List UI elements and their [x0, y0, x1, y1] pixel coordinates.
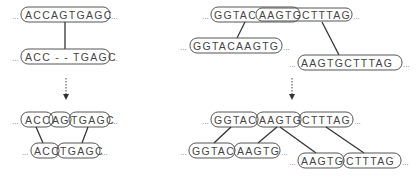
- svg-text:...: ...: [289, 158, 296, 167]
- svg-text:AAGTG: AAGTG: [259, 114, 302, 126]
- alignment-line: [258, 127, 277, 143]
- down-arrow-icon: [289, 78, 295, 100]
- svg-text:GGTAC: GGTAC: [192, 145, 235, 157]
- svg-text:ACC: ACC: [25, 114, 51, 126]
- svg-text:...: ...: [353, 12, 360, 21]
- alignment-line: [214, 127, 231, 143]
- svg-text:...: ...: [22, 148, 29, 157]
- down-arrow-icon: [63, 78, 69, 100]
- svg-text:...: ...: [402, 158, 409, 167]
- left-bottom-sequence: ACC - - TGAGC: [25, 51, 117, 63]
- alignment-line: [322, 22, 339, 55]
- left-before: ... ACCAGTGAGC ... ... ACC - - TGAGC ...: [12, 7, 118, 64]
- svg-text:CTTTAG: CTTTAG: [346, 155, 395, 167]
- svg-text:...: ...: [111, 117, 118, 126]
- left-after: ... ACC AG TGAGC ... ... ACC TGAGC ...: [12, 112, 118, 158]
- svg-text:...: ...: [12, 117, 19, 126]
- svg-text:AAGTGCTTTAG: AAGTGCTTTAG: [301, 57, 393, 69]
- svg-text:ACC: ACC: [34, 145, 60, 157]
- svg-text:...: ...: [354, 117, 361, 126]
- svg-text:AG: AG: [52, 114, 70, 126]
- alignment-line: [326, 127, 364, 153]
- alignment-line: [36, 127, 43, 143]
- svg-text:...: ...: [202, 12, 209, 21]
- svg-text:...: ...: [403, 60, 410, 69]
- svg-text:TGAGC: TGAGC: [71, 114, 115, 126]
- svg-text:...: ...: [111, 54, 118, 63]
- alignment-line: [237, 22, 245, 38]
- svg-text:...: ...: [289, 60, 296, 69]
- diagram-canvas: ... ACCAGTGAGC ... ... ACC - - TGAGC ...…: [0, 0, 419, 178]
- svg-text:GGTACAAGTG: GGTACAAGTG: [193, 40, 279, 52]
- svg-text:AAGTG: AAGTG: [301, 155, 344, 167]
- svg-text:...: ...: [283, 43, 290, 52]
- svg-text:AAGTG: AAGTG: [259, 9, 302, 21]
- left-top-sequence: ACCAGTGAGC: [25, 9, 113, 21]
- svg-text:GGTAC: GGTAC: [214, 114, 257, 126]
- svg-text:...: ...: [111, 12, 118, 21]
- right-before: ... GGTAC AAGTG CTTTAG ... ... GGTACAAGT…: [180, 7, 410, 70]
- sequence-alignment-diagram: ... ACCAGTGAGC ... ... ACC - - TGAGC ...…: [0, 0, 419, 178]
- svg-text:...: ...: [180, 148, 187, 157]
- svg-text:GGTAC: GGTAC: [214, 9, 257, 21]
- svg-text:...: ...: [202, 117, 209, 126]
- svg-text:...: ...: [12, 54, 19, 63]
- svg-text:CTTTAG: CTTTAG: [302, 114, 351, 126]
- right-after: ... GGTAC AAGTG CTTTAG ... ... GGTAC AAG…: [180, 112, 409, 168]
- svg-text:TGAGC: TGAGC: [60, 145, 104, 157]
- svg-text:AAGTG: AAGTG: [237, 145, 280, 157]
- svg-text:...: ...: [12, 12, 19, 21]
- svg-text:...: ...: [281, 148, 288, 157]
- alignment-line: [82, 127, 88, 143]
- svg-text:...: ...: [101, 148, 108, 157]
- svg-text:...: ...: [180, 43, 187, 52]
- svg-text:CTTTAG: CTTTAG: [302, 9, 351, 21]
